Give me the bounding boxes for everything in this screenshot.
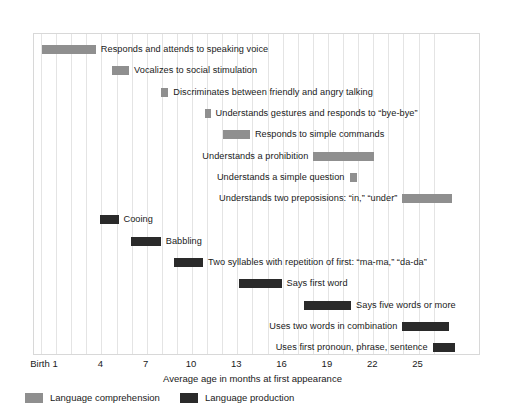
milestone-label: Understands a prohibition [202, 151, 308, 162]
milestone-label: Uses two words in combination [269, 321, 397, 332]
milestone-label: Babbling [166, 236, 202, 247]
milestone-row[interactable]: Discriminates between friendly and angry… [161, 86, 373, 99]
x-tick-label: 16 [276, 358, 287, 370]
milestone-row[interactable]: Says first word [239, 277, 347, 290]
milestone-row[interactable]: Says five words or more [304, 299, 456, 312]
milestone-label: Says first word [287, 278, 348, 289]
milestone-row[interactable]: Babbling [131, 235, 202, 248]
milestone-label: Understands a simple question [217, 172, 345, 183]
x-tick-label: 22 [367, 358, 378, 370]
milestone-label: Understands gestures and responds to “by… [216, 108, 418, 119]
legend-label: Language comprehension [50, 392, 160, 403]
x-tick-label: Birth [30, 358, 50, 370]
milestone-label: Vocalizes to social stimulation [134, 65, 257, 76]
legend-label: Language production [205, 392, 294, 403]
milestone-bar[interactable] [402, 322, 449, 331]
milestone-row[interactable]: Responds to simple commands [223, 128, 385, 141]
milestone-label: Responds and attends to speaking voice [101, 44, 268, 55]
x-axis-title: Average age in months at first appearanc… [0, 373, 505, 384]
milestone-bar[interactable] [42, 45, 96, 54]
milestone-label: Discriminates between friendly and angry… [173, 87, 373, 98]
milestone-row[interactable]: Understands gestures and responds to “by… [205, 107, 418, 120]
x-tick-label: 13 [231, 358, 242, 370]
milestone-label: Two syllables with repetition of first: … [208, 257, 427, 268]
x-axis-tick-labels: Birth147101316192225 [0, 358, 505, 372]
milestone-label: Responds to simple commands [255, 129, 385, 140]
chart-legend: Language comprehensionLanguage productio… [25, 392, 485, 410]
milestone-bar[interactable] [112, 66, 129, 75]
milestone-bar[interactable] [174, 258, 203, 267]
milestone-bar[interactable] [433, 343, 456, 352]
x-tick-label: 1 [52, 358, 57, 370]
milestone-bar[interactable] [100, 215, 118, 224]
milestone-bar[interactable] [161, 88, 169, 97]
legend-item[interactable]: Language comprehension [25, 392, 160, 403]
milestone-bar[interactable] [304, 301, 351, 310]
legend-item[interactable]: Language production [180, 392, 294, 403]
x-tick-label: 19 [322, 358, 333, 370]
milestone-bar[interactable] [350, 173, 358, 182]
milestone-label: Says five words or more [356, 300, 456, 311]
milestone-row[interactable]: Understands a simple question [0, 171, 357, 184]
language-milestones-chart: Responds and attends to speaking voiceVo… [0, 0, 505, 414]
milestone-label: Understands two preposisions: “in,” “und… [219, 193, 397, 204]
milestone-label: Cooing [124, 214, 153, 225]
milestone-label: Uses first pronoun, phrase, sentence [276, 342, 428, 353]
legend-swatch [25, 393, 43, 403]
milestone-bar[interactable] [402, 194, 452, 203]
milestone-bar[interactable] [313, 152, 373, 161]
milestone-row[interactable]: Understands two preposisions: “in,” “und… [0, 192, 452, 205]
x-tick-label: 25 [412, 358, 423, 370]
x-tick-label: 10 [186, 358, 197, 370]
milestone-row[interactable]: Responds and attends to speaking voice [42, 43, 269, 56]
x-tick-label: 7 [143, 358, 148, 370]
milestone-bar[interactable] [205, 109, 211, 118]
milestone-bar[interactable] [223, 130, 250, 139]
legend-swatch [180, 393, 198, 403]
milestone-bar[interactable] [239, 279, 281, 288]
milestone-row[interactable]: Uses first pronoun, phrase, sentence [0, 341, 455, 354]
milestone-bar[interactable] [131, 237, 161, 246]
milestone-row[interactable]: Cooing [100, 213, 153, 226]
x-tick-label: 4 [98, 358, 103, 370]
milestone-row[interactable]: Vocalizes to social stimulation [112, 64, 257, 77]
milestone-row[interactable]: Two syllables with repetition of first: … [174, 256, 426, 269]
milestone-row[interactable]: Understands a prohibition [0, 150, 374, 163]
milestone-row[interactable]: Uses two words in combination [0, 320, 449, 333]
